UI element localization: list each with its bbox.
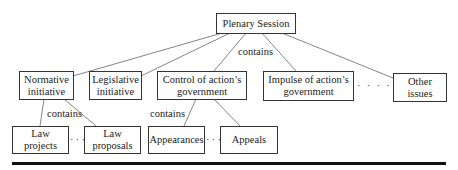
- law-projects-node: Law projects: [12, 126, 69, 154]
- appeals-node: Appeals: [220, 126, 278, 154]
- law-proposals-node: Law proposals: [84, 126, 141, 154]
- legislative-initiative-node: Legislative initiative: [89, 71, 142, 100]
- node-label: Law projects: [15, 128, 66, 152]
- contains-label-control: contains: [150, 108, 185, 119]
- node-label: Plenary Session: [223, 18, 290, 30]
- ellipsis-control-children: · · ·: [206, 134, 221, 145]
- contains-label-normative: contains: [47, 108, 82, 119]
- contains-label-root: contains: [238, 46, 273, 57]
- node-label: Control of action’s government: [160, 74, 244, 98]
- node-label: Other issues: [396, 76, 444, 100]
- ellipsis-normative-children: · · ·: [70, 134, 85, 145]
- ellipsis-level1: · · · ·: [357, 80, 392, 91]
- appearances-node: Appearances: [148, 126, 205, 154]
- normative-initiative-node: Normative initiative: [19, 71, 74, 100]
- node-label: Legislative initiative: [92, 74, 139, 98]
- node-label: Law proposals: [87, 128, 138, 152]
- node-label: Impulse of action’s government: [266, 74, 351, 98]
- control-node: Control of action’s government: [157, 71, 247, 100]
- bottom-rule: [12, 162, 446, 165]
- other-issues-node: Other issues: [393, 73, 447, 102]
- node-label: Normative initiative: [22, 74, 71, 98]
- node-label: Appeals: [232, 134, 266, 146]
- impulse-node: Impulse of action’s government: [263, 71, 354, 101]
- plenary-session-node: Plenary Session: [216, 13, 296, 34]
- node-label: Appearances: [149, 134, 203, 146]
